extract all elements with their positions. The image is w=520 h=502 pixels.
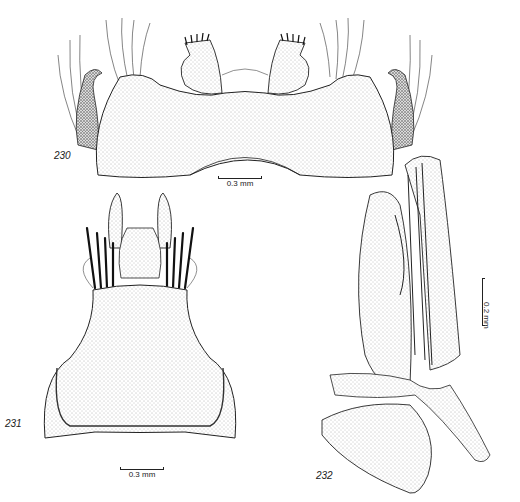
scale-bar-230: 0.3 mm <box>218 176 262 188</box>
figure-label-232: 232 <box>316 470 333 481</box>
scale-bar-231: 0.3 mm <box>120 467 164 479</box>
figure-label-231: 231 <box>5 418 22 429</box>
scale-bar-232: 0.2 mm <box>482 278 494 326</box>
scale-bar-label: 0.3 mm <box>120 470 164 479</box>
figure-label-230: 230 <box>54 150 71 161</box>
figure-232 <box>310 155 510 495</box>
scale-bar-label: 0.3 mm <box>218 179 262 188</box>
scale-bar-label: 0.2 mm <box>482 302 491 329</box>
figure-231 <box>35 188 245 460</box>
figure-231-drawing <box>35 188 245 460</box>
figure-232-drawing <box>310 155 510 495</box>
